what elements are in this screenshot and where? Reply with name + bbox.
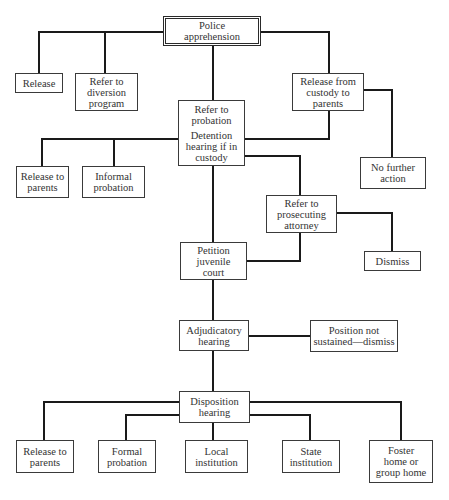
node-label: Informal [95, 171, 132, 182]
node-label: home or [384, 456, 419, 467]
node-label: Dismiss [376, 256, 410, 267]
node-label: parents [30, 457, 60, 468]
node-label: No further [371, 162, 415, 173]
node-label: hearing [198, 336, 230, 347]
node-label: prosecuting [277, 209, 326, 220]
node-label: Local [205, 446, 229, 457]
node-label: Foster [388, 445, 414, 456]
node-label: action [380, 173, 406, 184]
node-informal-probation: Informal probation [82, 166, 145, 198]
node-label: Position not [329, 325, 379, 336]
node-label: Petition [197, 245, 230, 256]
node-police-apprehension: Police apprehension [163, 16, 261, 46]
node-release-custody-parents: Release from custody to parents [292, 73, 364, 111]
node-label: court [203, 267, 225, 278]
node-label: hearing if in [186, 141, 237, 152]
node-formal-probation: Formal probation [98, 440, 156, 473]
node-release: Release [15, 73, 63, 93]
node-release-parents-upper: Release to parents [16, 166, 69, 198]
node-label: State [301, 446, 322, 457]
node-adjudicatory-hearing: Adjudicatory hearing [179, 320, 249, 351]
node-label: Refer to [191, 104, 231, 115]
node-label: Release to [23, 446, 66, 457]
node-position-not-sustained: Position not sustained—dismiss [310, 320, 398, 352]
node-label: apprehension [184, 31, 240, 42]
node-label: Adjudicatory [186, 325, 241, 336]
node-label: Refer to [89, 76, 123, 87]
node-label: Police [199, 20, 225, 31]
node-label: attorney [284, 220, 318, 231]
node-refer-probation: Refer to probation Detention hearing if … [178, 100, 245, 166]
node-label: diversion [87, 87, 126, 98]
node-label: parents [27, 182, 57, 193]
node-release-parents-lower: Release to parents [16, 440, 74, 473]
node-label: custody [186, 152, 237, 163]
node-para-detention: Detention hearing if in custody [186, 130, 237, 163]
node-label: Release from [300, 76, 356, 87]
node-label: probation [107, 457, 147, 468]
node-petition-court: Petition juvenile court [180, 242, 247, 280]
node-no-further-action: No further action [360, 157, 426, 189]
node-local-institution: Local institution [185, 440, 248, 473]
node-label: hearing [199, 407, 231, 418]
node-foster-home: Foster home or group home [369, 440, 433, 483]
node-label: sustained—dismiss [313, 336, 394, 347]
node-label: custody to [306, 87, 349, 98]
node-refer-diversion: Refer to diversion program [75, 73, 138, 111]
node-label: parents [313, 98, 343, 109]
node-label: Refer to [284, 198, 318, 209]
node-label: Formal [112, 446, 142, 457]
node-label: institution [290, 457, 333, 468]
node-label: institution [195, 457, 238, 468]
node-label: group home [376, 467, 426, 478]
node-label: juvenile [197, 256, 231, 267]
node-label: Disposition [190, 396, 238, 407]
node-label: probation [191, 115, 231, 126]
node-state-institution: State institution [282, 440, 340, 473]
node-label: Detention [186, 130, 237, 141]
node-label: program [89, 98, 125, 109]
node-label: Release [23, 78, 56, 89]
node-refer-prosecuting: Refer to prosecuting attorney [266, 195, 337, 233]
node-dismiss: Dismiss [364, 251, 421, 271]
node-disposition-hearing: Disposition hearing [179, 391, 250, 423]
node-label: probation [93, 182, 133, 193]
node-para-probation: Refer to probation [191, 104, 231, 126]
node-label: Release to [21, 171, 64, 182]
